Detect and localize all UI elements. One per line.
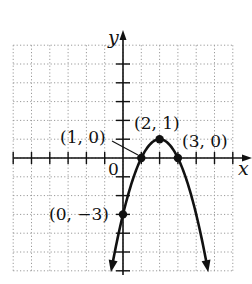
curve-arrow-icon: [202, 260, 211, 273]
origin-label: 0: [108, 159, 119, 179]
x-axis-label: x: [238, 157, 249, 179]
point-label-2-1: (2, 1): [134, 113, 180, 133]
y-axis-label: y: [107, 26, 119, 48]
y-axis-arrow-icon: [120, 30, 127, 40]
point-marker: [137, 154, 145, 162]
point-marker: [174, 154, 182, 162]
leader-line-1-0: [112, 141, 138, 155]
point-label-3-0: (3, 0): [182, 131, 228, 151]
point-marker: [119, 210, 127, 218]
point-label-1-0: (1, 0): [60, 127, 106, 147]
point-label-0-neg3: (0, −3): [49, 204, 109, 224]
parabola-graph: x y 0 (1, 0) (2, 1) (3, 0) (0, −3): [0, 0, 252, 284]
point-marker: [155, 135, 163, 143]
